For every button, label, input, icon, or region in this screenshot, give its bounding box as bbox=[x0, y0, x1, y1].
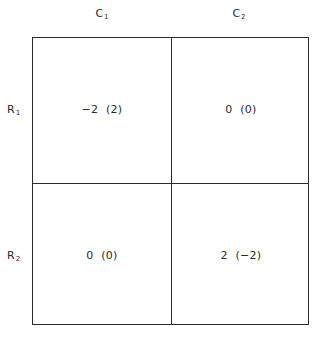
row-subscript: 1 bbox=[16, 109, 20, 117]
column-divider bbox=[171, 38, 172, 324]
column-letter: C bbox=[95, 7, 103, 20]
cell-r1-c1: −2 (2) bbox=[42, 103, 162, 117]
column-subscript: 2 bbox=[241, 13, 245, 21]
matrix-grid: −2 (2) 0 (0) 0 (0) 2 (−2) bbox=[32, 37, 309, 325]
row-subscript: 2 bbox=[16, 255, 20, 263]
row-label-r1: R1 bbox=[7, 103, 20, 120]
cell-r2-c2: 2 (−2) bbox=[181, 249, 301, 263]
row-letter: R bbox=[7, 103, 15, 116]
row-letter: R bbox=[7, 249, 15, 262]
row-label-r2: R2 bbox=[7, 249, 20, 266]
column-subscript: 1 bbox=[104, 13, 108, 21]
column-label-c1: C1 bbox=[72, 7, 132, 24]
cell-r1-c2: 0 (0) bbox=[181, 103, 301, 117]
row-divider bbox=[33, 183, 308, 184]
cell-r2-c1: 0 (0) bbox=[42, 249, 162, 263]
column-label-c2: C2 bbox=[209, 7, 269, 24]
column-letter: C bbox=[232, 7, 240, 20]
